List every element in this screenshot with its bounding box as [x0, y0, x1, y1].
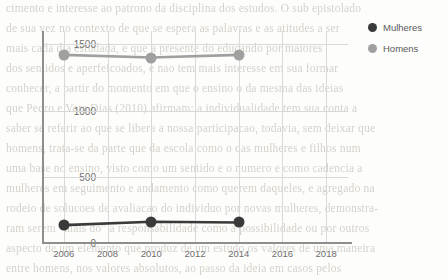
data-point[interactable]: [233, 217, 244, 228]
series-lines: [42, 31, 348, 243]
x-axis-tick-label: 2012: [184, 248, 205, 259]
legend-label: Homens: [383, 43, 418, 54]
x-axis-tick-label: 2014: [228, 248, 249, 259]
data-point[interactable]: [58, 220, 69, 231]
legend-label: Mulheres: [383, 22, 422, 33]
circle-marker-gray-icon: [368, 44, 377, 53]
data-point[interactable]: [58, 49, 69, 60]
chart-legend: Mulheres Homens: [368, 22, 422, 64]
plot-area: [42, 31, 348, 243]
legend-item-mulheres[interactable]: Mulheres: [368, 22, 422, 33]
x-axis-tick-label: 2006: [53, 248, 74, 259]
x-axis-tick-label: 2016: [272, 248, 293, 259]
circle-marker-dark-icon: [368, 23, 377, 32]
x-axis-tick-label: 2010: [141, 248, 162, 259]
data-point[interactable]: [146, 52, 157, 63]
line-chart: 050010001500 200620082010201220142016201…: [0, 0, 448, 279]
data-point[interactable]: [146, 216, 157, 227]
data-point[interactable]: [233, 49, 244, 60]
x-axis-tick-label: 2018: [316, 248, 337, 259]
x-axis-tick-label: 2008: [97, 248, 118, 259]
legend-item-homens[interactable]: Homens: [368, 43, 422, 54]
